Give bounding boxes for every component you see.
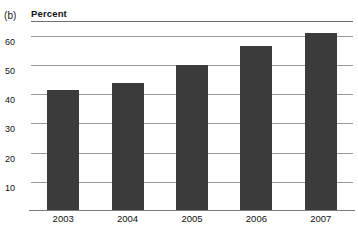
y-tick-label: 10 — [5, 183, 29, 193]
x-tick-label-2003: 2003 — [39, 213, 87, 225]
figure-panel-b: (b) Percent 102030405060 200320042005200… — [0, 0, 358, 231]
x-tick-label-2006: 2006 — [232, 213, 280, 225]
y-tick-label: 40 — [5, 95, 29, 105]
bar-2005 — [176, 65, 208, 210]
x-axis-tick-labels: 20032004200520062007 — [31, 213, 353, 229]
bar-2003 — [47, 90, 79, 210]
y-axis-title: Percent — [31, 8, 67, 19]
bar-2006 — [240, 46, 272, 210]
x-axis-baseline — [29, 210, 355, 211]
y-tick-label: 50 — [5, 66, 29, 76]
bar-2004 — [112, 83, 144, 210]
y-tick-label: 60 — [5, 37, 29, 47]
panel-letter-label: (b) — [4, 10, 17, 22]
y-tick-label: 20 — [5, 154, 29, 164]
bar-2007 — [305, 33, 337, 210]
x-tick-label-2004: 2004 — [104, 213, 152, 225]
x-tick-label-2007: 2007 — [297, 213, 345, 225]
x-tick-label-2005: 2005 — [168, 213, 216, 225]
plot-area: 102030405060 — [31, 21, 353, 211]
y-tick-label: 30 — [5, 124, 29, 134]
bars-group — [31, 21, 353, 211]
